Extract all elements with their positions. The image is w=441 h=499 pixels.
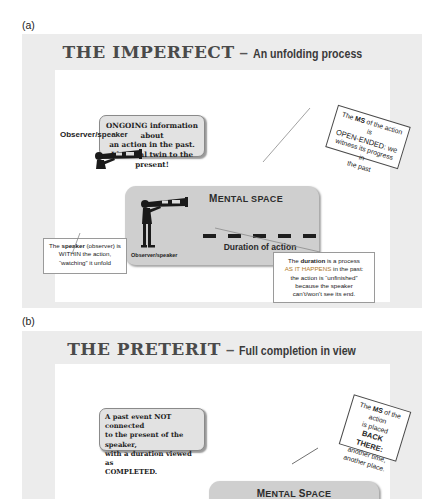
ms-rest: ENTAL SPACE <box>218 194 283 204</box>
note-text: can’t/won’t see its end. <box>274 290 374 298</box>
mental-space-box: MENTAL SPACE Duration of action <box>209 481 379 499</box>
note-text: “watching” it unfold <box>44 259 126 267</box>
note-highlight: AS IT HAPPENS <box>285 265 332 272</box>
note-text: in the past: <box>331 265 363 272</box>
ms-initial: M <box>209 193 218 204</box>
panel-label-b: (b) <box>22 315 35 327</box>
dashed-duration-line <box>203 234 319 238</box>
note-text: (observer) is <box>85 242 121 249</box>
callout-line: COMPLETED. <box>105 468 199 477</box>
back-there-note: The MS of the action is placed BACK THER… <box>339 394 412 461</box>
note-text: because the speaker <box>274 282 374 290</box>
panel-title: THE IMPERFECT–An unfolding process <box>22 42 422 62</box>
speaker-note: The speaker (observer) is WITHIN the act… <box>43 238 127 274</box>
diagram-area: A past event NOT connected to the presen… <box>55 364 390 499</box>
note-text: The <box>288 257 300 264</box>
ms-initial: S <box>299 488 306 499</box>
person-with-telescope-icon <box>138 196 190 252</box>
ms-rest: ENTAL <box>265 489 298 499</box>
title-dash: – <box>240 44 248 61</box>
panel-preterit: THE PRETERIT–Full completion in view A p… <box>22 331 422 499</box>
open-ended-note: The MS of the action is OPEN-ENDED: we w… <box>325 105 411 169</box>
callout-line: to the present of the speaker, <box>105 431 199 449</box>
observer-label: Observer/speaker <box>60 130 128 139</box>
duration-label: Duration of action <box>163 242 357 252</box>
callout-line: A past event NOT connected <box>105 413 199 431</box>
duration-note: The duration is a process AS IT HAPPENS … <box>273 252 375 303</box>
title-subtitle: Full completion in view <box>239 344 356 358</box>
definition-callout: A past event NOT connected to the presen… <box>99 408 205 451</box>
mental-space-title: MENTAL SPACE <box>209 488 379 499</box>
panel-label-a: (a) <box>22 19 35 31</box>
callout-line: with a duration viewed as <box>105 450 199 468</box>
note-text: the action is “unfinished” <box>274 274 374 282</box>
observer-label: Observer/speaker <box>131 252 177 258</box>
note-text: WITHIN the action, <box>44 250 126 258</box>
title-main: THE IMPERFECT <box>63 42 235 62</box>
note-bold: speaker <box>61 242 84 249</box>
note-text: of the action is <box>364 118 403 136</box>
note-text: The <box>49 242 61 249</box>
person-with-telescope-icon <box>92 147 144 169</box>
ms-rest: PACE <box>306 489 332 499</box>
panel-title: THE PRETERIT–Full completion in view <box>22 339 422 359</box>
title-dash: – <box>226 341 234 358</box>
title-subtitle: An unfolding process <box>253 47 362 61</box>
title-main: THE PRETERIT <box>67 339 221 359</box>
note-bold: duration <box>300 257 325 264</box>
note-text: is a process <box>325 257 360 264</box>
